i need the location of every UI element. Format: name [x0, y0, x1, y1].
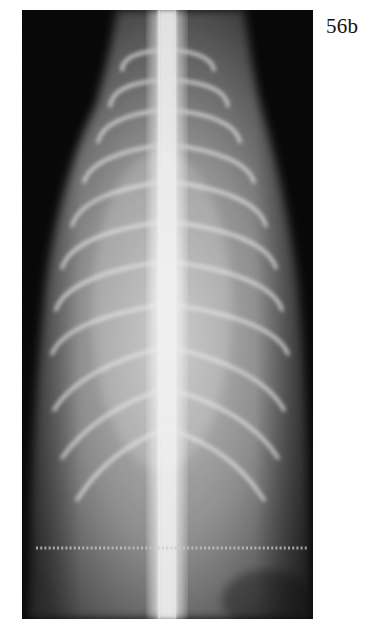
figure-label: 56b — [326, 14, 358, 39]
radiograph-figure — [22, 10, 313, 619]
radiograph-image — [22, 10, 313, 619]
